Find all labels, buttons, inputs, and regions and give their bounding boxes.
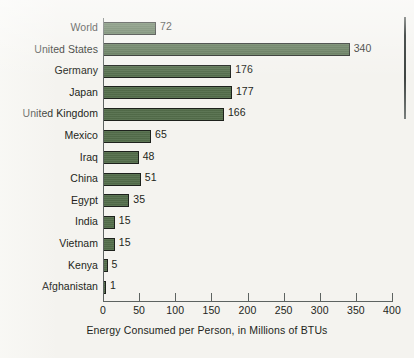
bar-fill <box>104 238 115 251</box>
x-axis-tick-label: 0 <box>100 304 106 316</box>
bar-fill <box>104 194 129 207</box>
category-label: Japan <box>69 86 98 98</box>
category-label: Iraq <box>80 151 98 163</box>
bar[interactable] <box>104 22 156 35</box>
bar-fill <box>104 86 232 99</box>
x-axis-tick-label: 50 <box>133 304 145 316</box>
x-axis-title: Energy Consumed per Person, in Millions … <box>0 324 414 336</box>
x-axis-tick <box>356 293 357 301</box>
bar[interactable] <box>104 281 106 294</box>
chart-figure: World72United States340Germany176Japan17… <box>0 0 414 358</box>
bar-value-label: 177 <box>236 85 254 97</box>
bar[interactable] <box>104 173 141 186</box>
bar-value-label: 166 <box>228 106 246 118</box>
bar[interactable] <box>104 108 224 121</box>
x-axis-tick-label: 350 <box>347 304 365 316</box>
bar-row: Mexico65 <box>0 126 414 147</box>
bar-fill <box>104 65 231 78</box>
category-label: Vietnam <box>59 237 98 249</box>
x-axis-tick-label: 150 <box>202 304 220 316</box>
bar-row: Iraq48 <box>0 148 414 169</box>
x-axis-tick-label: 250 <box>275 304 293 316</box>
bar-value-label: 176 <box>235 63 253 75</box>
bar-value-label: 48 <box>143 150 155 162</box>
bar[interactable] <box>104 43 350 56</box>
bar-fill <box>104 130 151 143</box>
bar-value-label: 340 <box>354 42 372 54</box>
x-axis-tick-label: 400 <box>383 304 401 316</box>
x-axis-tick-label: 200 <box>239 304 257 316</box>
x-axis-tick <box>175 293 176 301</box>
category-label: Germany <box>54 64 98 76</box>
bar-row: Germany176 <box>0 61 414 82</box>
x-axis-line <box>103 301 393 302</box>
bar-value-label: 35 <box>133 193 145 205</box>
x-axis-tick <box>284 293 285 301</box>
category-label: United States <box>34 43 98 55</box>
bar[interactable] <box>104 86 232 99</box>
bar-row: Egypt35 <box>0 191 414 212</box>
bar-value-label: 15 <box>119 214 131 226</box>
category-label: Egypt <box>71 194 98 206</box>
bar[interactable] <box>104 65 231 78</box>
bar-row: United States340 <box>0 40 414 61</box>
bar-fill <box>104 151 139 164</box>
category-label: Mexico <box>64 129 98 141</box>
bar-fill <box>104 173 141 186</box>
y-axis-line <box>103 18 104 302</box>
bar-row: Japan177 <box>0 83 414 104</box>
category-label: China <box>70 172 98 184</box>
bar-value-label: 51 <box>145 171 157 183</box>
bar[interactable] <box>104 238 115 251</box>
bar-fill <box>104 216 115 229</box>
bar-value-label: 65 <box>155 128 167 140</box>
bar[interactable] <box>104 216 115 229</box>
bar-value-label: 5 <box>112 258 118 270</box>
category-label: United Kingdom <box>23 107 98 119</box>
bar-fill <box>104 43 350 56</box>
bar-row: Vietnam15 <box>0 234 414 255</box>
category-label: World <box>71 21 98 33</box>
x-axis-tick-label: 100 <box>166 304 184 316</box>
x-axis-tick <box>103 293 104 301</box>
bar-row: Kenya5 <box>0 256 414 277</box>
bar-fill <box>104 281 106 294</box>
x-axis-tick <box>139 293 140 301</box>
bar-fill <box>104 22 156 35</box>
x-axis-tick <box>392 293 393 301</box>
bar[interactable] <box>104 259 108 272</box>
x-axis-tick <box>248 293 249 301</box>
x-axis-tick <box>320 293 321 301</box>
bar-fill <box>104 259 108 272</box>
category-label: Kenya <box>68 259 98 271</box>
bar-row: Afghanistan1 <box>0 277 414 298</box>
bar[interactable] <box>104 194 129 207</box>
bar[interactable] <box>104 130 151 143</box>
category-label: India <box>75 215 98 227</box>
bar-row: World72 <box>0 18 414 39</box>
x-axis-tick <box>211 293 212 301</box>
bar-value-label: 15 <box>119 236 131 248</box>
bar-row: China51 <box>0 169 414 190</box>
bar-chart-screenshot: World72United States340Germany176Japan17… <box>0 0 414 358</box>
bar-value-label: 1 <box>110 279 116 291</box>
bar-row: India15 <box>0 212 414 233</box>
bar[interactable] <box>104 151 139 164</box>
bar-value-label: 72 <box>160 20 172 32</box>
page-edge-artifact <box>404 17 406 119</box>
bar-row: United Kingdom166 <box>0 104 414 125</box>
x-axis-tick-label: 300 <box>311 304 329 316</box>
bar-fill <box>104 108 224 121</box>
category-label: Afghanistan <box>42 280 98 292</box>
